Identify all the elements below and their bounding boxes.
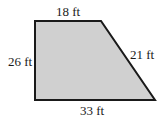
trapezoid-figure: 18 ft 21 ft 26 ft 33 ft (0, 0, 162, 120)
top-side-label: 18 ft (56, 5, 80, 18)
left-side-label: 26 ft (8, 55, 32, 68)
bottom-side-label: 33 ft (80, 104, 104, 117)
slanted-side-label: 21 ft (130, 48, 154, 61)
